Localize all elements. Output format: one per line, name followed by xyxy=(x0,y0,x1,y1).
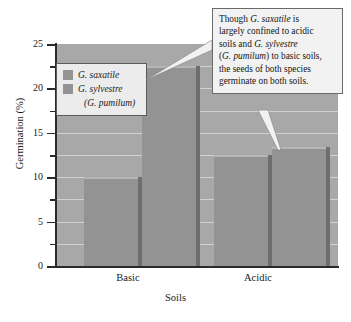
callout-line-4: (G. pumilum) to basic soils, xyxy=(219,50,337,62)
callout-line-3: soils and G. sylvestre xyxy=(219,38,337,50)
callout-line-5: the seeds of both species xyxy=(219,63,337,75)
callout-line-1: Though G. saxatile is xyxy=(219,13,337,25)
callout-annotation: Though G. saxatile is largely confined t… xyxy=(212,8,343,94)
chart-figure: 25 20 15 10 5 0 Germination (%) Basic Ac… xyxy=(0,0,351,322)
callout-line-2: largely confined to acidic xyxy=(219,25,337,37)
callout-line-6: germinate on both soils. xyxy=(219,75,337,87)
